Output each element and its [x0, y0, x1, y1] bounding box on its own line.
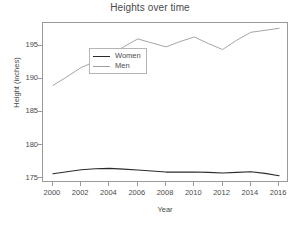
x-tick-mark [165, 182, 166, 186]
plot-area: Women Men [42, 22, 288, 182]
y-tick-mark [38, 144, 42, 145]
x-tick-label: 2004 [100, 188, 117, 197]
y-tick-label: 195 [18, 40, 38, 49]
x-tick-label: 2008 [157, 188, 174, 197]
x-tick-mark [193, 182, 194, 186]
plot-lines [43, 23, 289, 183]
x-tick-mark [80, 182, 81, 186]
y-tick-label: 185 [18, 106, 38, 115]
x-tick-label: 2000 [44, 188, 61, 197]
x-tick-mark [278, 182, 279, 186]
x-tick-label: 2014 [241, 188, 258, 197]
y-tick-mark [38, 45, 42, 46]
x-tick-mark [52, 182, 53, 186]
legend-swatch-men [93, 66, 110, 67]
chart-title: Heights over time [0, 2, 300, 13]
chart-legend: Women Men [89, 48, 147, 74]
x-axis-label: Year [42, 205, 288, 214]
legend-item-men: Men [93, 61, 141, 71]
x-tick-label: 2012 [213, 188, 230, 197]
y-tick-mark [38, 177, 42, 178]
x-tick-label: 2016 [270, 188, 287, 197]
x-tick-mark [222, 182, 223, 186]
y-tick-label: 175 [18, 173, 38, 182]
y-axis-label: Height (inches) [12, 23, 21, 143]
y-tick-label: 180 [18, 140, 38, 149]
chart-figure: Heights over time Women Men 175180185190… [0, 0, 300, 225]
series-line-men [53, 28, 279, 85]
legend-swatch-women [93, 56, 110, 57]
x-tick-label: 2010 [185, 188, 202, 197]
series-line-women [53, 168, 279, 175]
y-tick-mark [38, 78, 42, 79]
x-tick-label: 2002 [72, 188, 89, 197]
x-tick-mark [108, 182, 109, 186]
y-tick-label: 190 [18, 73, 38, 82]
legend-label-men: Men [115, 61, 130, 71]
y-tick-mark [38, 111, 42, 112]
x-tick-label: 2006 [128, 188, 145, 197]
legend-item-women: Women [93, 51, 141, 61]
x-tick-mark [250, 182, 251, 186]
x-tick-mark [137, 182, 138, 186]
legend-label-women: Women [115, 51, 141, 61]
